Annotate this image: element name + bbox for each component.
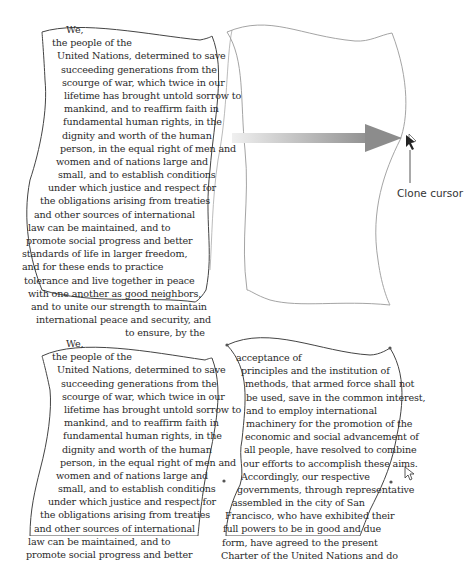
text-line: Francisco, who have exhibited their xyxy=(0,509,425,522)
text-line: principles and the institution of xyxy=(0,364,425,377)
text-line: economic and social advancement of xyxy=(0,430,425,443)
text-line: form, have agreed to the present xyxy=(0,536,425,549)
text-line: methods, that armed force shall not xyxy=(0,377,425,390)
text-line: machinery for the promotion of the xyxy=(0,417,425,430)
bottom-right-text-block: acceptance of principles and the institu… xyxy=(0,0,425,562)
text-line: all people, have resolved to combine xyxy=(0,443,425,456)
text-line: and to employ international xyxy=(0,404,425,417)
text-line: full powers to be in good and due xyxy=(0,522,425,535)
text-line: be used, save in the common interest, xyxy=(0,391,425,404)
text-line: our efforts to accomplish these aims. xyxy=(0,457,425,470)
text-line: acceptance of xyxy=(0,351,425,364)
text-line: assembled in the city of San xyxy=(0,496,425,509)
text-line: Accordingly, our respective xyxy=(0,470,425,483)
text-line: governments, through representative xyxy=(0,483,425,496)
text-line: Charter of the United Nations and do xyxy=(0,549,425,562)
